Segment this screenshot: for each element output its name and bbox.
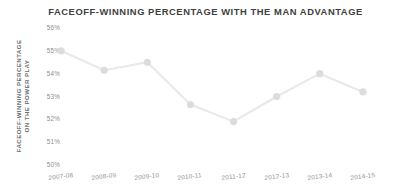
y-axis-tick-label: 56% (30, 24, 60, 31)
y-axis-tick-label: 54% (30, 70, 60, 77)
x-axis-tick-label: 2014-15 (350, 171, 376, 181)
x-axis-tick-label: 2012-13 (264, 171, 290, 181)
x-axis-tick-label: 2007-08 (48, 171, 74, 181)
data-point-marker (230, 118, 237, 125)
x-axis-tick-label: 2009-10 (134, 171, 160, 181)
data-point-marker (316, 70, 323, 77)
series-line-chart-svg (60, 28, 405, 165)
y-axis-ticks: 56%55%54%53%52%51%50% (28, 0, 60, 193)
y-axis-label-line-1: FACEOFF-WINNING PERCENTAGE (15, 26, 23, 166)
data-point-marker (57, 47, 64, 54)
chart-title: FACEOFF-WINNING PERCENTAGE WITH THE MAN … (0, 6, 411, 17)
y-axis-tick-label: 51% (30, 138, 60, 145)
x-axis-ticks: 2007-082008-092009-102010-112011-122012-… (0, 168, 411, 193)
data-point-marker (187, 101, 194, 108)
x-axis-tick-label: 2010-11 (177, 171, 202, 181)
y-axis-tick-label: 50% (30, 161, 60, 168)
data-point-marker (144, 59, 151, 66)
x-axis-tick-label: 2013-14 (307, 171, 333, 181)
x-axis-tick-label: 2008-09 (91, 171, 117, 181)
line-chart: FACEOFF-WINNING PERCENTAGE WITH THE MAN … (0, 0, 411, 193)
plot-area (60, 28, 405, 165)
data-point-marker (273, 93, 280, 100)
data-point-marker (359, 88, 366, 95)
y-axis-tick-label: 53% (30, 93, 60, 100)
y-axis-tick-label: 55% (30, 47, 60, 54)
x-axis-tick-label: 2011-12 (221, 171, 246, 181)
series-line (61, 51, 363, 122)
y-axis-tick-label: 52% (30, 115, 60, 122)
data-point-marker (101, 67, 108, 74)
